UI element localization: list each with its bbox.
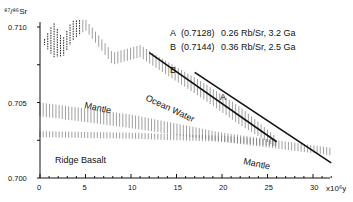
x-tick-label: 15 — [174, 183, 182, 192]
label-ocean-water: Ocean Water — [144, 93, 196, 124]
x-axis-label: x10⁶y — [326, 184, 346, 193]
line-A — [195, 72, 332, 163]
legend-b-initial: (0.7144) — [181, 42, 215, 52]
legend-a-key: A — [170, 28, 176, 38]
legend-a-desc: 0.26 Rb/Sr, 3.2 Ga — [221, 28, 296, 38]
legend-a-initial: (0.7128) — [181, 28, 215, 38]
legend-b-desc: 0.36 Rb/Sr, 2.5 Ga — [221, 42, 296, 52]
x-tick-label: 0 — [37, 183, 41, 192]
x-tick-label: 10 — [128, 183, 136, 192]
strontium-isotope-chart: 0.7000.7050.710 051015202530 ⁸⁷/⁸⁶Sr x10… — [0, 0, 353, 202]
label-line-a: A — [220, 92, 226, 102]
x-tick-label: 20 — [219, 183, 227, 192]
hatched-bands — [40, 20, 330, 155]
label-line-b: B — [170, 65, 176, 75]
chart-svg: 0.7000.7050.710 051015202530 ⁸⁷/⁸⁶Sr x10… — [0, 0, 353, 202]
x-tick-label: 5 — [83, 183, 87, 192]
label-mantle-lower: Mantle — [243, 156, 272, 171]
y-tick-label: 0.705 — [8, 99, 27, 108]
y-tick-label: 0.700 — [8, 174, 27, 183]
legend: A (0.7128) 0.26 Rb/Sr, 3.2 Ga B (0.7144)… — [170, 28, 296, 52]
y-axis-label: ⁸⁷/⁸⁶Sr — [4, 7, 27, 16]
y-tick-label: 0.710 — [8, 23, 27, 32]
line-B — [149, 53, 276, 142]
x-tick-label: 25 — [265, 183, 273, 192]
x-tick-label: 30 — [310, 183, 318, 192]
legend-b-key: B — [170, 42, 176, 52]
label-ridge-basalt: Ridge Basalt — [55, 155, 107, 165]
